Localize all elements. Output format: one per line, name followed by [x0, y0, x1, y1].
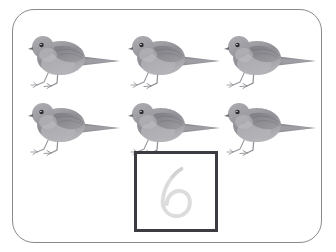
- numeral-trace-guide: 6: [137, 154, 215, 229]
- bird-icon: [224, 92, 320, 158]
- bird-item: bird: [224, 92, 320, 158]
- bird-icon: [224, 25, 320, 91]
- bird-item: bird: [128, 25, 224, 91]
- bird-icon: [28, 92, 124, 158]
- number-answer-box[interactable]: 6: [134, 151, 218, 232]
- bird-icon: [128, 92, 224, 158]
- number-box-inner: 6: [137, 154, 215, 229]
- bird-item: bird: [28, 25, 124, 91]
- counting-worksheet: bird: [0, 0, 336, 252]
- numeral-value: 6: [137, 154, 215, 229]
- bird-item: bird: [28, 92, 124, 158]
- bird-icon: [28, 25, 124, 91]
- bird-item: bird: [224, 25, 320, 91]
- bird-item: bird: [128, 92, 224, 158]
- bird-icon: [128, 25, 224, 91]
